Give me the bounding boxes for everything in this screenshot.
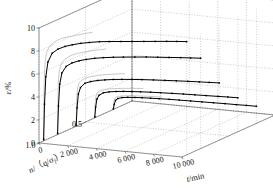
data-marker (141, 97, 143, 99)
data-marker (227, 96, 229, 98)
axis-label-stress-level: n/（q/σf） (27, 149, 65, 176)
data-marker (64, 46, 66, 48)
data-marker (236, 104, 238, 106)
data-marker (143, 41, 145, 43)
data-marker (121, 79, 123, 81)
data-marker (43, 138, 45, 140)
axis-box-layer (39, 0, 273, 157)
data-marker (180, 57, 182, 59)
data-marker (78, 93, 80, 95)
data-marker (90, 81, 92, 83)
data-marker (153, 79, 155, 81)
data-marker (208, 82, 210, 84)
data-marker (113, 108, 115, 110)
data-marker (256, 106, 258, 108)
data-marker (89, 42, 91, 44)
data-marker (183, 93, 185, 95)
data-marker (206, 95, 208, 97)
data-marker (80, 43, 82, 45)
data-marker (115, 100, 117, 102)
data-marker (134, 97, 136, 99)
data-marker (171, 93, 173, 95)
data-marker (194, 94, 196, 96)
tick-label-time: 4 000 (88, 149, 108, 162)
data-marker (134, 56, 136, 58)
data-marker (116, 91, 118, 93)
data-marker (120, 41, 122, 43)
data-marker (218, 82, 220, 84)
data-marker (104, 79, 106, 81)
tick-label-stress-level: 1.0 (26, 141, 36, 150)
data-marker (190, 100, 192, 102)
figure-3d-creep-plot: 02468101.00.502 0004 0006 0008 00010 000… (0, 0, 273, 190)
tick-label-strain: 2 (31, 116, 35, 125)
data-marker (76, 107, 78, 109)
tick-label-stress-level: 0.5 (72, 120, 82, 129)
data-marker (190, 57, 192, 59)
data-marker (127, 97, 129, 99)
data-marker (103, 92, 105, 94)
data-marker (45, 76, 47, 78)
data-marker (201, 101, 203, 103)
data-marker (117, 98, 119, 100)
data-marker (103, 57, 105, 59)
data-marker (58, 105, 60, 107)
data-marker (108, 91, 110, 93)
data-marker (78, 60, 80, 62)
data-marker (98, 94, 100, 96)
data-marker (187, 81, 189, 83)
data-marker (168, 57, 170, 59)
plot-canvas: 02468101.00.502 0004 0006 0008 00010 000… (0, 0, 273, 190)
grid-layer (39, 0, 273, 157)
tick-layer: 02468101.00.502 0004 0006 0008 00010 000 (26, 24, 196, 171)
data-marker (150, 97, 152, 99)
projected-curve-3 (95, 88, 144, 117)
data-marker (61, 72, 63, 74)
data-marker (158, 98, 160, 100)
creep-curve-4 (113, 97, 258, 110)
tick-label-strain: 6 (31, 70, 35, 79)
data-marker (57, 48, 59, 50)
projection-layer (44, 32, 162, 139)
data-marker (85, 59, 87, 61)
data-marker (164, 80, 166, 82)
data-marker (47, 61, 49, 63)
tick-label-strain: 4 (31, 93, 35, 102)
data-marker (141, 79, 143, 81)
tick-label-time: 10 000 (172, 157, 195, 171)
data-marker (57, 132, 59, 134)
data-marker (198, 81, 200, 83)
data-marker (176, 80, 178, 82)
data-marker (113, 57, 115, 59)
data-marker (213, 102, 215, 104)
data-marker (44, 103, 46, 105)
data-marker (154, 41, 156, 43)
data-marker (131, 91, 133, 93)
data-marker (166, 41, 168, 43)
data-marker (113, 79, 115, 81)
tick-label-strain: 10 (27, 24, 35, 33)
tick-label-time: 6 000 (116, 152, 136, 165)
data-marker (59, 83, 61, 85)
data-marker (132, 41, 134, 43)
data-marker (146, 56, 148, 58)
tick-label-strain: 8 (31, 47, 35, 56)
data-marker (114, 104, 116, 106)
data-marker (246, 105, 248, 107)
creep-curve-0 (43, 41, 188, 141)
data-marker (94, 58, 96, 60)
data-marker (131, 79, 133, 81)
data-marker (72, 44, 74, 46)
data-marker (224, 103, 226, 105)
projected-curve-2 (76, 74, 125, 125)
data-marker (178, 99, 180, 101)
data-marker (150, 91, 152, 93)
data-marker (140, 91, 142, 93)
data-marker (84, 83, 86, 85)
data-marker (237, 97, 239, 99)
tick-label-time: 8 000 (145, 155, 165, 168)
data-marker (99, 41, 101, 43)
data-marker (160, 92, 162, 94)
data-marker (109, 41, 111, 43)
projected-curve-0 (44, 32, 93, 139)
